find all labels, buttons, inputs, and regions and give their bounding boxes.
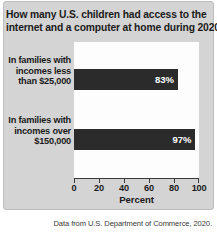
category-label-high-income: In families with incomes over $150,000 bbox=[0, 115, 71, 147]
x-axis-tick-label: 100 bbox=[186, 183, 212, 193]
x-axis-tick-label: 80 bbox=[161, 183, 187, 193]
chart-title-line-1: How many U.S. children had access to the bbox=[6, 8, 205, 21]
category-label-low-income-line-1: In families with bbox=[0, 55, 71, 66]
category-label-high-income-line-2: incomes over bbox=[0, 126, 71, 137]
chart-title: How many U.S. children had access to the… bbox=[6, 8, 205, 34]
category-label-high-income-line-1: In families with bbox=[0, 115, 71, 126]
chart-figure: How many U.S. children had access to the… bbox=[0, 0, 217, 235]
x-axis-tick-label: 0 bbox=[61, 183, 87, 193]
category-label-low-income: In families with incomes less than $25,0… bbox=[0, 55, 71, 87]
chart-caption: Data from U.S. Department of Commerce, 2… bbox=[0, 219, 212, 228]
bar-value-low-income: 83% bbox=[155, 75, 174, 85]
category-label-high-income-line-3: $150,000 bbox=[0, 136, 71, 147]
bar-low-income: 83% bbox=[74, 69, 178, 90]
chart-title-line-2: internet and a computer at home during 2… bbox=[6, 21, 205, 34]
plot-area: 83% 97% bbox=[74, 42, 199, 178]
category-label-low-income-line-3: than $25,000 bbox=[0, 76, 71, 87]
bar-value-high-income: 97% bbox=[173, 135, 192, 145]
x-axis-tick-label: 60 bbox=[136, 183, 162, 193]
x-axis-label: Percent bbox=[74, 194, 199, 205]
x-axis-tick-label: 20 bbox=[86, 183, 112, 193]
bar-high-income: 97% bbox=[74, 129, 195, 150]
x-axis-tick-label: 40 bbox=[111, 183, 137, 193]
category-label-low-income-line-2: incomes less bbox=[0, 66, 71, 77]
